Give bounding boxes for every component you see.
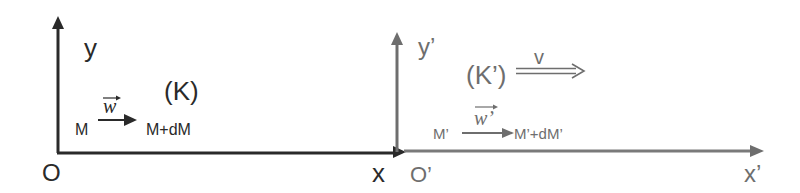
kp-x-axis-label: x’ [744, 160, 761, 187]
kp-y-axis-arrowhead-icon [391, 32, 403, 45]
k-point-m-plus-dm: M+dM [146, 121, 191, 138]
frame-k-prime: y’ O’ x’ (K’) v M’ w’ M’+dM’ [391, 32, 764, 187]
k-vector-bar-arrow-icon [116, 96, 121, 101]
kp-vector-bar-arrow-icon [493, 105, 498, 110]
kp-velocity-label: v [534, 46, 544, 68]
k-x-axis-label: x [372, 158, 385, 188]
k-frame-name: (K) [164, 76, 199, 106]
k-displacement-arrowhead-icon [124, 114, 137, 126]
kp-x-axis-arrowhead-icon [750, 145, 764, 157]
kp-velocity-arrowhead-icon [572, 64, 584, 78]
reference-frames-diagram: y O x (K) M w M+dM y’ O’ x’ (K’) v M’ w’ [0, 0, 800, 193]
kp-displacement-arrowhead-icon [502, 128, 514, 138]
kp-point-m-plus-dm: M’+dM’ [514, 125, 563, 142]
kp-origin-label: O’ [410, 162, 432, 187]
kp-y-axis-label: y’ [418, 33, 435, 60]
k-y-axis-label: y [84, 33, 97, 63]
kp-frame-name: (K’) [466, 60, 506, 90]
k-origin-label: O [42, 159, 61, 186]
k-point-m: M [75, 121, 88, 138]
frame-k: y O x (K) M w M+dM [42, 16, 406, 188]
kp-point-m: M’ [433, 125, 449, 142]
k-y-axis-arrowhead-icon [52, 16, 64, 29]
kp-vector-w: w’ [474, 107, 494, 129]
